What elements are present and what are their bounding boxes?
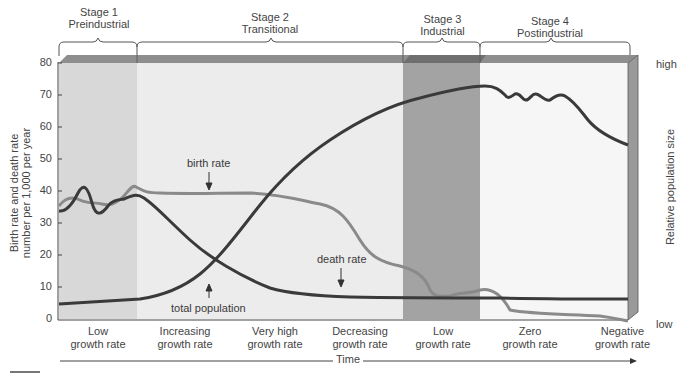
growth-label-5: Low growth rate — [403, 325, 483, 351]
growth-line1: Low — [58, 325, 138, 338]
growth-label-6: Zero growth rate — [490, 325, 570, 351]
y-tick-20: 20 — [32, 248, 52, 260]
y-tick-40: 40 — [32, 184, 52, 196]
growth-line1: Increasing — [145, 325, 225, 338]
stage-4-region — [480, 63, 628, 319]
y-axis-label-line1: Birth rate and death rate — [8, 118, 20, 268]
growth-label-3: Very high growth rate — [235, 325, 315, 351]
growth-line2: growth rate — [235, 338, 315, 351]
total-population-label: total population — [171, 302, 246, 314]
growth-line1: Very high — [235, 325, 315, 338]
growth-line1: Decreasing — [320, 325, 400, 338]
x-axis-label: Time — [336, 353, 360, 365]
growth-line2: growth rate — [145, 338, 225, 351]
growth-label-4: Decreasing growth rate — [320, 325, 400, 351]
stage-3-region — [403, 63, 480, 319]
growth-label-1: Low growth rate — [58, 325, 138, 351]
y-right-high-label: high — [656, 58, 677, 70]
growth-line1: Low — [403, 325, 483, 338]
y-axis-right-label: Relative population size — [664, 122, 676, 252]
y-tick-70: 70 — [32, 88, 52, 100]
y-axis-left-label: Birth rate and death rate number per 1,0… — [8, 118, 32, 268]
y-tick-10: 10 — [32, 280, 52, 292]
growth-line2: growth rate — [58, 338, 138, 351]
top-bar-stage3 — [403, 55, 486, 63]
growth-line1: Negative — [580, 325, 665, 338]
growth-line2: growth rate — [490, 338, 570, 351]
top-bar — [59, 55, 638, 63]
right-side-bar — [628, 55, 638, 320]
time-arrow-head — [630, 358, 637, 364]
y-tick-50: 50 — [32, 152, 52, 164]
growth-line1: Zero — [490, 325, 570, 338]
y-axis-label-line2: number per 1,000 per year — [20, 118, 32, 268]
growth-label-7: Negative growth rate — [580, 325, 665, 351]
y-tick-30: 30 — [32, 216, 52, 228]
growth-label-2: Increasing growth rate — [145, 325, 225, 351]
stage-1-region — [59, 63, 137, 319]
y-tick-60: 60 — [32, 120, 52, 132]
growth-line2: growth rate — [320, 338, 400, 351]
demographic-transition-chart — [0, 0, 687, 373]
y-tick-0: 0 — [32, 312, 52, 324]
growth-line2: growth rate — [403, 338, 483, 351]
stage-braces — [59, 38, 630, 56]
death-rate-label: death rate — [317, 253, 367, 265]
y-tick-80: 80 — [32, 56, 52, 68]
growth-line2: growth rate — [580, 338, 665, 351]
birth-rate-label: birth rate — [187, 157, 230, 169]
